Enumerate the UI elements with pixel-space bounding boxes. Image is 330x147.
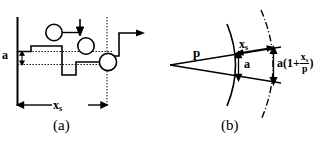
incident-arrow-down (76, 19, 83, 36)
xs-dimension-arrow (18, 102, 108, 108)
outer-dimension-arrow-b (270, 47, 276, 85)
panel-a: a xs (a) (0, 0, 165, 147)
formula-denominator: p (300, 64, 310, 74)
panel-b-p-label: p (193, 46, 200, 59)
marker-circle-2 (78, 38, 94, 54)
formula-fraction: xsp (300, 52, 310, 75)
formula-suffix: ) (309, 56, 313, 70)
panel-a-caption: (a) (53, 118, 70, 133)
wedge-ray-upper (170, 47, 281, 65)
figure-root: a xs (a) (0, 0, 330, 147)
amplitude-dimension-arrow (20, 52, 24, 65)
wedge-ray-lower (170, 65, 281, 83)
marker-circle-3 (99, 53, 116, 70)
formula-prefix: a(1+ (277, 56, 300, 70)
panel-a-xs-subscript: s (59, 104, 62, 113)
arc-inner-solid (227, 24, 236, 106)
step-profile-path (18, 33, 138, 75)
formula-numerator-subscript: s (306, 56, 309, 63)
panel-b-xs-label: xs (239, 38, 248, 52)
marker-circle-1 (46, 24, 62, 40)
panel-a-drawing (0, 0, 165, 147)
outgoing-arrow-right (136, 29, 145, 36)
panel-b: p xs a a(1+xsp) (b) (165, 0, 330, 147)
panel-b-a-label: a (244, 58, 250, 70)
panel-b-formula-label: a(1+xsp) (277, 52, 313, 75)
panel-a-xs-label: xs (53, 99, 62, 113)
arc-outer-dashed (261, 10, 273, 120)
panel-b-xs-subscript: s (245, 43, 248, 52)
a-dimension-arrow-b (236, 52, 242, 81)
panel-b-caption: (b) (221, 118, 239, 133)
panel-a-amplitude-label: a (2, 49, 8, 61)
